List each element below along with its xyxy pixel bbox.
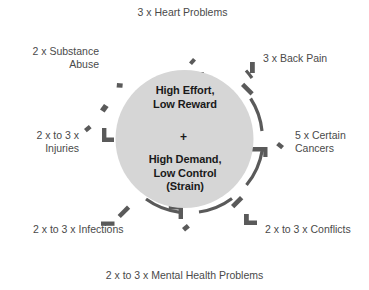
shadow-tick-n-head bbox=[189, 58, 196, 65]
shadow-tick-ne-head bbox=[250, 62, 255, 73]
label-substance-abuse: 2 x Substance Abuse bbox=[0, 45, 99, 70]
label-back-pain: 3 x Back Pain bbox=[263, 52, 367, 65]
label-certain-cancers: 5 x Certain Cancers bbox=[295, 129, 369, 154]
shadow-tick-sw bbox=[118, 206, 131, 219]
core-text-plus: + bbox=[180, 131, 187, 143]
diagram-canvas: High Effort, Low Reward + High Demand, L… bbox=[0, 0, 369, 290]
shadow-tick-e-head bbox=[276, 142, 284, 149]
core-text-high-effort: High Effort, Low Reward bbox=[120, 84, 250, 111]
label-infections: 2 x to 3 x Infections bbox=[33, 223, 153, 236]
label-conflicts: 2 x to 3 x Conflicts bbox=[265, 223, 369, 236]
label-injuries: 2 x to 3 x Injuries bbox=[0, 129, 79, 154]
core-text-high-demand: High Demand, Low Control (Strain) bbox=[120, 153, 250, 194]
shadow-tick-se bbox=[231, 196, 243, 208]
shadow-tick-w-head bbox=[84, 125, 92, 132]
shadow-arc-ne bbox=[251, 99, 262, 132]
shadow-tick-nw bbox=[100, 104, 109, 112]
shadow-tick-w bbox=[102, 128, 114, 142]
shadow-tick-se-head bbox=[244, 214, 257, 225]
shadow-tick-s-head bbox=[182, 224, 190, 232]
label-mental-health-problems: 2 x to 3 x Mental Health Problems bbox=[70, 269, 299, 282]
label-heart-problems: 3 x Heart Problems bbox=[100, 6, 265, 19]
